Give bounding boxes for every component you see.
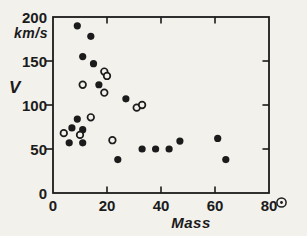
y-axis-unit-label: km/s [0, 25, 48, 41]
data-point-filled [166, 145, 173, 152]
figure-page: 050100150200020406080 km/s V Mass [0, 0, 307, 236]
data-point-filled [176, 137, 183, 144]
x-tick-label: 20 [99, 197, 116, 214]
y-axis-label: V [9, 78, 20, 98]
data-point-filled [139, 145, 146, 152]
data-point-filled [90, 60, 97, 67]
data-point-filled [74, 115, 81, 122]
data-point-filled [222, 156, 229, 163]
y-tick-label: 100 [22, 97, 47, 114]
data-point-open [101, 89, 108, 96]
data-point-filled [114, 156, 121, 163]
data-point-filled [74, 22, 81, 29]
data-point-open [109, 137, 116, 144]
data-point-open [88, 114, 95, 121]
plot-box [53, 17, 269, 193]
data-point-filled [214, 135, 221, 142]
data-point-filled [95, 81, 102, 88]
x-axis-label: Mass [161, 214, 221, 231]
x-tick-label: 80 [261, 197, 278, 214]
y-tick-label: 150 [22, 53, 47, 70]
data-point-filled [87, 33, 94, 40]
data-point-open [77, 132, 84, 139]
x-tick-label: 60 [207, 197, 224, 214]
x-tick-label: 0 [49, 197, 57, 214]
sun-symbol-dot [280, 201, 283, 204]
y-tick-label: 50 [30, 141, 47, 158]
data-point-open [104, 73, 111, 80]
data-point-filled [122, 95, 129, 102]
x-tick-label: 40 [153, 197, 170, 214]
data-point-filled [79, 139, 86, 146]
data-point-filled [79, 53, 86, 60]
scatter-chart: 050100150200020406080 km/s V Mass [0, 0, 307, 236]
data-point-filled [66, 139, 73, 146]
data-point-open [79, 81, 86, 88]
y-tick-label: 0 [39, 185, 47, 202]
data-point-filled [68, 124, 75, 131]
data-point-open [61, 130, 68, 137]
data-point-filled [152, 145, 159, 152]
y-tick-label: 200 [22, 9, 47, 26]
data-point-open [139, 102, 146, 109]
